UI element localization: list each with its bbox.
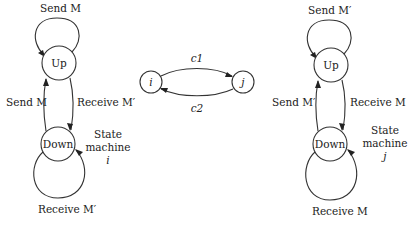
label-receive-m-j: Receive M <box>350 96 406 108</box>
state-machine-j: Send M′ Send M′ Receive M Receive M Up D… <box>272 4 408 217</box>
label-send-m-prime-j: Send M′ <box>272 96 316 108</box>
label-send-m-prime-loop-j: Send M′ <box>308 4 352 16</box>
channel-c1 <box>161 69 232 77</box>
channel-c1-label: c1 <box>191 52 204 64</box>
label-send-m-i: Send M <box>6 96 47 108</box>
state-machine-i: Send M Send M Receive M′ Receive M′ Up D… <box>6 2 136 215</box>
node-i-label: i <box>149 76 152 88</box>
caption-line3-j: j <box>381 150 387 162</box>
arrowhead-icon <box>315 80 321 88</box>
caption-line3-i: i <box>106 154 109 166</box>
arrowhead-icon <box>75 149 83 156</box>
state-up-label-j: Up <box>323 59 339 71</box>
edge-up-to-down-i <box>70 78 73 130</box>
state-up-label-i: Up <box>51 57 67 69</box>
state-down-label-j: Down <box>315 138 346 150</box>
edge-up-to-down-j <box>342 80 345 130</box>
caption-line2-j: machine <box>362 137 407 149</box>
caption-line1-j: State <box>371 124 399 136</box>
state-machine-diagram: Send M Send M Receive M′ Receive M′ Up D… <box>0 0 408 232</box>
label-send-m-loop-i: Send M <box>40 2 81 14</box>
label-receive-m-prime-i: Receive M′ <box>77 96 136 108</box>
arrowhead-icon <box>43 78 49 86</box>
arrowhead-icon <box>160 88 168 93</box>
arrowhead-icon <box>347 149 355 156</box>
label-receive-m-prime-loop-i: Receive M′ <box>38 203 97 215</box>
state-down-label-i: Down <box>43 138 74 150</box>
edge-down-to-up-j <box>316 81 318 131</box>
channel-c2-label: c2 <box>191 102 204 114</box>
caption-line1-i: State <box>94 128 122 140</box>
caption-line2-i: machine <box>85 141 130 153</box>
channel-c2 <box>161 89 233 96</box>
channel-graph: i j c1 c2 <box>140 52 254 114</box>
label-receive-m-loop-j: Receive M <box>312 205 368 217</box>
